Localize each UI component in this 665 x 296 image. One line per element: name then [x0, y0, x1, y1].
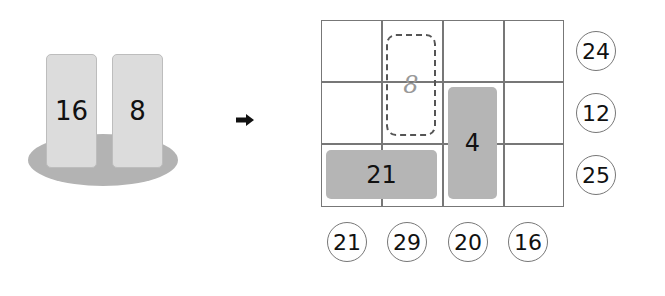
block-label: 21	[366, 161, 397, 189]
sum-label: 25	[582, 163, 610, 188]
sum-label: 16	[514, 230, 542, 255]
sum-label: 12	[582, 101, 610, 126]
sum-label: 24	[582, 39, 610, 64]
card-label: 16	[55, 96, 88, 126]
card-label: 8	[129, 96, 146, 126]
grid-line	[503, 20, 505, 207]
sum-label: 21	[333, 230, 361, 255]
block-4: 4	[448, 87, 497, 199]
number-card-8[interactable]: 8	[112, 54, 163, 168]
block-21: 21	[326, 150, 437, 199]
row-sum-2: 12	[576, 93, 616, 133]
number-card-16[interactable]: 16	[46, 54, 97, 168]
sum-label: 20	[454, 230, 482, 255]
block-label: 4	[465, 129, 480, 157]
grid-line	[321, 143, 564, 145]
col-sum-4: 16	[508, 222, 548, 262]
col-sum-3: 20	[448, 222, 488, 262]
sum-label: 29	[393, 230, 421, 255]
grid-line	[442, 20, 444, 207]
row-sum-3: 25	[576, 155, 616, 195]
grid-line	[321, 81, 564, 83]
arrow-right-icon	[236, 114, 254, 126]
col-sum-2: 29	[387, 222, 427, 262]
col-sum-1: 21	[327, 222, 367, 262]
row-sum-1: 24	[576, 31, 616, 71]
slot-label: 8	[403, 71, 418, 99]
placement-slot-8[interactable]: 8	[386, 34, 436, 136]
